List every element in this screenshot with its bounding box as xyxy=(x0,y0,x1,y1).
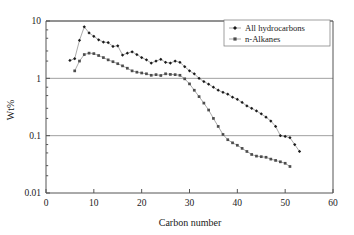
data-point xyxy=(212,86,215,89)
data-point xyxy=(250,107,253,110)
data-point xyxy=(284,162,287,165)
data-point xyxy=(226,138,229,141)
data-point xyxy=(265,156,268,159)
y-tick-label-10: 10 xyxy=(32,16,42,26)
series-line xyxy=(75,53,290,166)
x-tick-label-60: 60 xyxy=(328,198,338,208)
y-axis-title: Wt% xyxy=(5,100,16,121)
data-point xyxy=(150,74,153,77)
data-point xyxy=(226,93,229,96)
data-point xyxy=(203,102,206,105)
data-point xyxy=(116,44,119,47)
legend-label: All hydrocarbons xyxy=(245,23,306,33)
x-tick-label-0: 0 xyxy=(44,198,49,208)
y-tick-label-0.1: 0.1 xyxy=(29,131,41,141)
data-point xyxy=(284,135,287,138)
data-point xyxy=(241,147,244,150)
data-point xyxy=(212,117,215,120)
data-point xyxy=(78,60,81,63)
legend-label: n-Alkanes xyxy=(245,34,281,44)
data-point xyxy=(73,70,76,73)
data-point xyxy=(159,58,162,61)
data-point xyxy=(221,91,224,94)
data-point xyxy=(88,52,91,55)
y-tick-labels: 0.010.1110 xyxy=(24,16,41,198)
data-point xyxy=(188,83,191,86)
data-point xyxy=(279,160,282,163)
data-point xyxy=(135,53,138,56)
data-point xyxy=(174,73,177,76)
data-point xyxy=(169,61,172,64)
data-point xyxy=(107,59,110,62)
data-point xyxy=(145,58,148,61)
data-point xyxy=(126,67,129,70)
data-point xyxy=(255,155,258,158)
data-point xyxy=(155,73,158,76)
data-point xyxy=(121,65,124,68)
x-axis-title: Carbon number xyxy=(159,217,222,228)
data-point xyxy=(102,40,105,43)
series-n-alkanes xyxy=(73,52,291,168)
data-point xyxy=(83,53,86,56)
x-tick-label-30: 30 xyxy=(185,198,195,208)
data-point xyxy=(193,89,196,92)
x-tick-label-20: 20 xyxy=(137,198,147,208)
data-point xyxy=(179,74,182,77)
data-point xyxy=(231,96,234,99)
data-point xyxy=(116,62,119,65)
data-point xyxy=(78,39,81,42)
data-point xyxy=(274,159,277,162)
data-point xyxy=(217,125,220,128)
data-point xyxy=(183,77,186,80)
line-chart: 0102030405060 0.010.1110 Carbon number W… xyxy=(0,0,354,235)
data-point xyxy=(140,56,143,59)
data-point xyxy=(145,72,148,75)
data-point xyxy=(222,133,225,136)
y-tick-label-0.01: 0.01 xyxy=(24,188,41,198)
data-point xyxy=(255,109,258,112)
data-point xyxy=(250,153,253,156)
data-point xyxy=(159,74,162,77)
chart-legend: All hydrocarbonsn-Alkanes xyxy=(224,20,330,46)
data-point xyxy=(102,56,105,59)
x-tick-label-40: 40 xyxy=(233,198,243,208)
data-point xyxy=(68,59,71,62)
data-point xyxy=(260,155,263,158)
data-point xyxy=(279,134,282,137)
data-point xyxy=(121,53,124,56)
data-point xyxy=(73,57,76,60)
data-point xyxy=(131,70,134,73)
data-point xyxy=(217,89,220,92)
data-point xyxy=(140,72,143,75)
data-point xyxy=(198,95,201,98)
data-point xyxy=(97,54,100,57)
data-point xyxy=(92,52,95,55)
data-point xyxy=(236,98,239,101)
data-point xyxy=(231,141,234,144)
data-point xyxy=(130,50,133,53)
data-point xyxy=(112,60,115,63)
data-point xyxy=(126,52,129,55)
data-series-layer xyxy=(68,25,301,168)
x-tick-label-10: 10 xyxy=(89,198,99,208)
data-point xyxy=(154,59,157,62)
data-point xyxy=(246,150,249,153)
data-point xyxy=(269,158,272,161)
chart-figure: 0102030405060 0.010.1110 Carbon number W… xyxy=(0,0,354,235)
data-point xyxy=(202,80,205,83)
data-point xyxy=(207,83,210,86)
data-point xyxy=(174,59,177,62)
data-point xyxy=(150,61,153,64)
data-point xyxy=(169,73,172,76)
data-point xyxy=(136,71,139,74)
data-point xyxy=(164,61,167,64)
y-tick-label-1: 1 xyxy=(36,74,41,84)
x-tick-label-50: 50 xyxy=(280,198,290,208)
data-point xyxy=(207,109,210,112)
legend-marker-symbol xyxy=(233,37,236,40)
data-point xyxy=(236,144,239,147)
x-tick-labels: 0102030405060 xyxy=(44,198,338,208)
data-point xyxy=(289,165,292,168)
data-point xyxy=(164,72,167,75)
